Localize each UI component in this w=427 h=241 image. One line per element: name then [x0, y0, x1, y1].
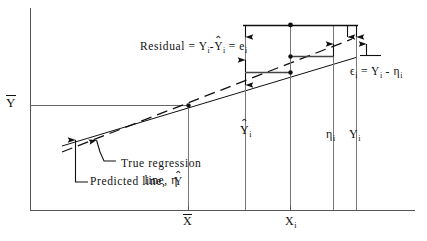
eta-i-sub: i [333, 134, 335, 143]
epsilon-y: Y [371, 65, 380, 77]
residual-prefix: Residual = [140, 40, 199, 52]
predicted-hat-cap: ⌃ [174, 170, 183, 180]
predicted-regression-line [62, 58, 356, 147]
yhat-i-hat-cap: ⌃ [240, 118, 249, 128]
y-mean-label: Y [6, 96, 16, 109]
residual-equals: = [225, 40, 239, 52]
x-i-sub: i [294, 221, 296, 230]
epsilon-eta-sub: i [400, 71, 402, 80]
true-line-leader-path [100, 152, 116, 161]
residual-hat-cap: ⌃ [214, 35, 223, 45]
x-mean-label: X [183, 215, 192, 227]
eta-i-base: η [326, 127, 333, 141]
epsilon-annotation: ϵi = Yi - ηi [350, 66, 402, 79]
epsilon-minus: - [382, 65, 393, 77]
predicted-line-leader-path [76, 152, 89, 182]
true-line-point-dot [288, 54, 292, 58]
predicted-line-label: Predicted line, ⌃Y [90, 176, 183, 188]
eta-i-value-label: ηi [326, 128, 335, 143]
y-i-base: Y [349, 127, 358, 141]
predicted-line-text: Predicted line, [90, 175, 165, 187]
regression-diagram: Y Residual = Yi-⌃Yi = ei ϵi = Yi - ηi Tr… [0, 0, 427, 241]
predicted-line-point-dot [288, 70, 292, 74]
epsilon-equals: = [357, 65, 371, 77]
yhat-i-sub: i [249, 130, 251, 139]
x-i-label: Xi [285, 215, 297, 230]
true-line-label-row1: True regression [121, 157, 201, 169]
true-line-leader-arrow [97, 140, 101, 152]
observed-point-dot [288, 23, 293, 28]
mean-point-dot [186, 103, 190, 107]
residual-annotation: Residual = Yi-⌃Yi = ei [140, 41, 247, 54]
yhat-i-value-label: ⌃Yi [240, 124, 252, 139]
residual-yhat: ⌃Y [214, 41, 223, 53]
residual-y: Y [199, 40, 208, 52]
x-i-base: X [285, 214, 294, 228]
residual-e-sub: i [245, 46, 247, 55]
yhat-i-symbol: ⌃Y [240, 124, 249, 136]
predicted-line-yhat: ⌃Y [174, 176, 183, 188]
y-i-sub: i [358, 134, 360, 143]
y-i-value-label: Yi [349, 128, 361, 143]
